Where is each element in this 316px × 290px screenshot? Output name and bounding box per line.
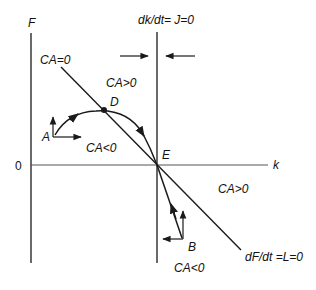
- point-a-label: A: [41, 130, 50, 144]
- trajectory-arrow-icon: [139, 128, 144, 136]
- trajectory-b-e: [157, 165, 182, 238]
- region-lower-positive: CA>0: [218, 182, 249, 196]
- f-axis-label: F: [28, 16, 36, 30]
- region-upper-negative: CA<0: [86, 141, 117, 155]
- point-d-label: D: [110, 95, 119, 109]
- ca-zero-line: [61, 67, 241, 250]
- trajectory-b-arrow-icon: [171, 204, 176, 219]
- df-dt-label: dF/dt =L=0: [245, 250, 303, 264]
- region-upper-positive: CA>0: [106, 76, 137, 90]
- dk-dt-label: dk/dt= J=0: [138, 13, 194, 27]
- point-d-marker: [101, 107, 107, 113]
- point-e-label: E: [162, 148, 171, 162]
- origin-label: 0: [15, 159, 22, 173]
- k-axis-label: k: [273, 158, 280, 172]
- point-b-label: B: [188, 240, 196, 254]
- region-lower-negative: CA<0: [174, 261, 205, 275]
- ca-zero-label: CA=0: [40, 53, 71, 67]
- phase-diagram: F k 0 dk/dt= J=0 CA=0 dF/dt =L=0 CA>0 CA…: [0, 0, 316, 290]
